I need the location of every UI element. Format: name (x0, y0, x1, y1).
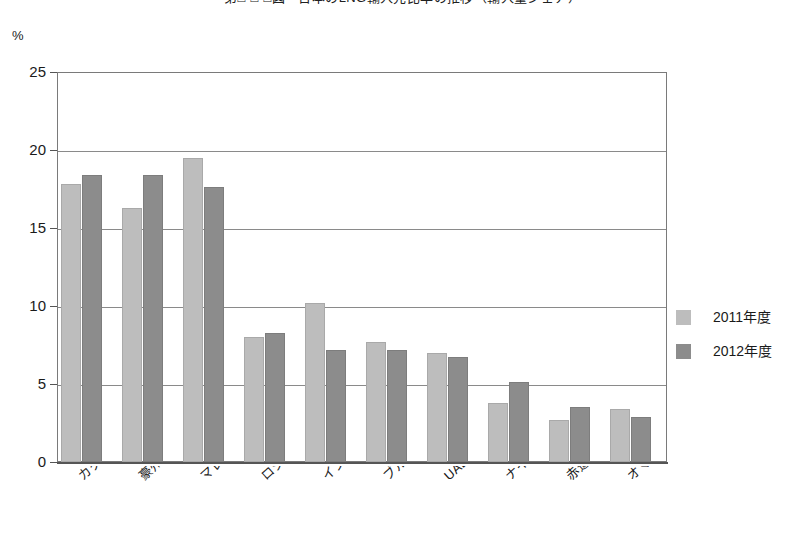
bar-2011年度-インドネシア[interactable] (305, 303, 325, 462)
legend-label-2012: 2012年度 (713, 344, 772, 358)
x-label-4: ロシア (258, 466, 297, 483)
y-axis-unit-label: % (12, 28, 24, 43)
bar-2012年度-マレーシア[interactable] (204, 187, 224, 462)
y-tick-label-25: 25 (0, 64, 46, 79)
x-label-5: インドネシア (319, 466, 388, 483)
legend-item-2011[interactable]: 2011年度 (676, 300, 801, 334)
y-tick-mark-0 (50, 462, 57, 463)
bar-group-10 (606, 72, 667, 462)
dark-gray-swatch-icon (676, 344, 691, 359)
y-tick-mark-15 (50, 228, 57, 229)
bar-2012年度-ブルネイ[interactable] (387, 350, 407, 462)
bar-2012年度-オマーン[interactable] (631, 417, 651, 462)
bar-2012年度-UAE[interactable] (448, 357, 468, 462)
bar-group-3 (179, 72, 240, 462)
bar-2011年度-オマーン[interactable] (610, 409, 630, 462)
bar-2011年度-ブルネイ[interactable] (366, 342, 386, 462)
bar-2012年度-赤道ギニア[interactable] (570, 407, 590, 462)
x-axis-category-labels: カタール豪州マレーシアロシアインドネシアブルネイUAEナイジェリア赤道ギニアオマ… (57, 466, 667, 534)
x-label-10: オマーン (624, 466, 667, 483)
x-label-6: ブルネイ (380, 466, 429, 483)
y-tick-label-0: 0 (0, 454, 46, 469)
x-label-8: ナイジェリア (502, 466, 571, 483)
legend-label-2011: 2011年度 (713, 310, 771, 324)
legend-item-2012[interactable]: 2012年度 (676, 334, 801, 368)
bar-2011年度-豪州[interactable] (122, 208, 142, 462)
bar-2011年度-赤道ギニア[interactable] (549, 420, 569, 462)
chart-legend: 2011年度 2012年度 (676, 300, 801, 368)
bar-2012年度-ナイジェリア[interactable] (509, 382, 529, 462)
bar-2011年度-マレーシア[interactable] (183, 158, 203, 462)
chart-title: 第□-□-□図 日本のLNG輸入先比率の推移（輸入量シェア） (0, 0, 805, 5)
bar-group-9 (545, 72, 606, 462)
y-tick-label-10: 10 (0, 298, 46, 313)
bar-2011年度-ナイジェリア[interactable] (488, 403, 508, 462)
y-tick-mark-10 (50, 306, 57, 307)
y-tick-mark-5 (50, 384, 57, 385)
bar-series-layer (57, 72, 667, 462)
light-gray-swatch-icon (676, 310, 691, 325)
y-tick-mark-20 (50, 150, 57, 151)
bar-group-7 (423, 72, 484, 462)
y-tick-label-5: 5 (0, 376, 46, 391)
bar-2012年度-ロシア[interactable] (265, 333, 285, 462)
y-tick-label-15: 15 (0, 220, 46, 235)
bar-group-4 (240, 72, 301, 462)
bar-2011年度-UAE[interactable] (427, 353, 447, 462)
x-label-7: UAE (441, 466, 471, 483)
bar-2011年度-カタール[interactable] (61, 184, 81, 462)
x-label-1: カタール (75, 466, 124, 483)
x-label-3: マレーシア (197, 466, 256, 483)
y-tick-mark-25 (50, 72, 57, 73)
x-axis-line (57, 462, 668, 464)
bar-group-1 (57, 72, 118, 462)
bar-2012年度-カタール[interactable] (82, 175, 102, 462)
bar-group-2 (118, 72, 179, 462)
bar-group-8 (484, 72, 545, 462)
bar-group-6 (362, 72, 423, 462)
bar-2012年度-インドネシア[interactable] (326, 350, 346, 462)
bar-2011年度-ロシア[interactable] (244, 337, 264, 462)
bar-group-5 (301, 72, 362, 462)
x-label-9: 赤道ギニア (563, 466, 622, 483)
y-tick-label-20: 20 (0, 142, 46, 157)
bar-2012年度-豪州[interactable] (143, 175, 163, 462)
x-label-2: 豪州 (136, 466, 166, 483)
